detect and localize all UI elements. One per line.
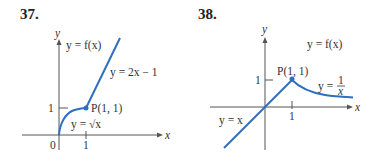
figure-38: 38. y x y = f(x) P(1, 1) y = 1 x y = x 1… (185, 0, 377, 161)
point-p (290, 77, 295, 82)
x-axis-arrow-icon (157, 133, 163, 138)
graph-37: y x y = f(x) y = 2x − 1 y = √x P(1, 1) 1… (0, 0, 190, 161)
identity-label: y = x (219, 114, 243, 127)
figure-37: 37. y x y = f(x) y = 2x − 1 y = √x P(1, … (0, 0, 190, 161)
x-axis-arrow-icon (347, 105, 353, 110)
y-axis-arrow-icon (263, 37, 268, 43)
y-axis-label: y (261, 23, 268, 36)
y-axis-label: y (54, 27, 61, 40)
point-label: P(1, 1) (277, 65, 308, 78)
y-tick-label: 1 (48, 102, 54, 114)
y-axis-arrow-icon (57, 39, 62, 45)
origin-label: 0 (50, 139, 56, 151)
function-label: y = f(x) (66, 39, 101, 52)
y-tick-label: 1 (255, 74, 261, 86)
svg-text:x: x (337, 85, 344, 97)
point-p (84, 106, 89, 111)
function-label: y = f(x) (307, 38, 342, 51)
sqrt-label: y = √x (71, 118, 101, 131)
svg-text:y =: y = (318, 80, 333, 93)
x-axis-label: x (354, 101, 361, 113)
point-label: P(1, 1) (91, 102, 122, 115)
x-axis-label: x (164, 129, 171, 141)
graph-38: y x y = f(x) P(1, 1) y = 1 x y = x 1 1 (185, 0, 377, 161)
x-tick-label: 1 (289, 110, 295, 122)
line-label: y = 2x − 1 (110, 66, 158, 79)
x-tick-label: 1 (83, 139, 89, 151)
